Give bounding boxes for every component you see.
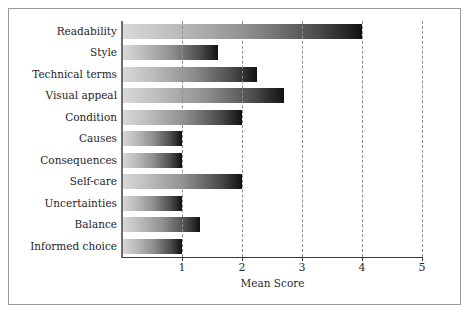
x-axis-title: Mean Score <box>122 277 423 289</box>
bar <box>122 153 182 168</box>
bar-row: Self-care <box>0 171 470 192</box>
x-tick-label-3: 3 <box>287 261 317 274</box>
x-axis-line <box>122 257 423 258</box>
bar-row: Technical terms <box>0 64 470 85</box>
bar <box>122 239 182 254</box>
bar-row: Consequences <box>0 150 470 171</box>
category-label: Visual appeal <box>14 85 117 106</box>
category-label: Informed choice <box>14 236 117 257</box>
gridline-3 <box>302 21 303 257</box>
bar <box>122 217 200 232</box>
gridline-1 <box>182 21 183 257</box>
category-label: Readability <box>14 21 117 42</box>
bar <box>122 45 218 60</box>
gridline-2 <box>242 21 243 257</box>
gridline-5 <box>422 21 423 257</box>
bar <box>122 196 182 211</box>
x-tick-label-4: 4 <box>347 261 377 274</box>
chart-plot-area: ReadabilityStyleTechnical termsVisual ap… <box>0 0 470 315</box>
category-label: Technical terms <box>14 64 117 85</box>
bar-row: Visual appeal <box>0 85 470 106</box>
category-label: Self-care <box>14 171 117 192</box>
bar-row: Informed choice <box>0 236 470 257</box>
x-tick-label-2: 2 <box>227 261 257 274</box>
category-label: Causes <box>14 128 117 149</box>
bar-row: Causes <box>0 128 470 149</box>
bar-row: Condition <box>0 107 470 128</box>
bar-row: Readability <box>0 21 470 42</box>
bar <box>122 131 182 146</box>
bar <box>122 67 257 82</box>
x-tick-label-1: 1 <box>167 261 197 274</box>
category-label: Balance <box>14 214 117 235</box>
bar-row: Uncertainties <box>0 193 470 214</box>
bar-row: Balance <box>0 214 470 235</box>
gridline-4 <box>362 21 363 257</box>
bar <box>122 88 284 103</box>
category-label: Uncertainties <box>14 193 117 214</box>
category-label: Style <box>14 42 117 63</box>
y-axis-line <box>121 21 123 258</box>
category-label: Consequences <box>14 150 117 171</box>
category-label: Condition <box>14 107 117 128</box>
bar-row: Style <box>0 42 470 63</box>
x-tick-label-5: 5 <box>407 261 437 274</box>
